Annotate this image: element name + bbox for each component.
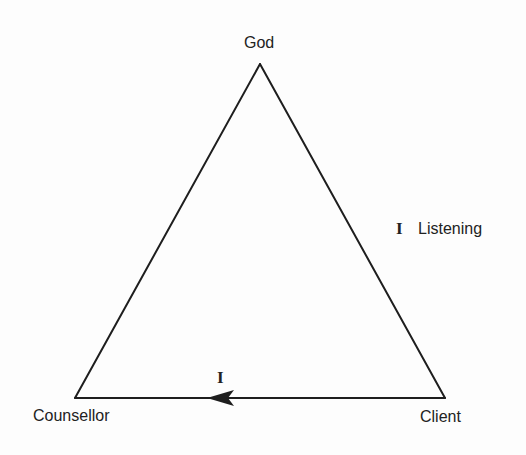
edge-counsellor-god (75, 64, 260, 398)
vertex-label-client: Client (420, 409, 461, 425)
edge-bottom-numeral: I (217, 369, 224, 386)
edge-right-label: Listening (418, 221, 482, 237)
vertex-label-counsellor: Counsellor (33, 408, 109, 424)
vertex-label-god: God (244, 35, 274, 51)
edge-right-numeral: I (396, 220, 403, 237)
diagram-canvas: God Counsellor Client I Listening I (0, 0, 526, 455)
